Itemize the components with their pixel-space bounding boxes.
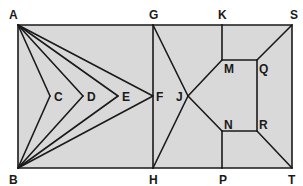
point-label-d: D: [87, 90, 96, 104]
point-label-h: H: [149, 173, 158, 186]
point-label-m: M: [224, 62, 234, 76]
point-label-c: C: [54, 90, 63, 104]
point-label-b: B: [9, 173, 18, 186]
point-label-a: A: [9, 8, 18, 22]
point-label-q: Q: [259, 62, 268, 76]
point-label-r: R: [259, 118, 268, 132]
point-label-g: G: [149, 8, 158, 22]
point-label-e: E: [122, 90, 130, 104]
point-label-j: J: [176, 90, 183, 104]
point-label-k: K: [218, 8, 227, 22]
point-label-p: P: [219, 173, 227, 186]
geometry-diagram: A B C D E F G H J K M N P Q R S T: [0, 0, 303, 186]
point-label-n: N: [224, 118, 233, 132]
point-label-f: F: [156, 90, 163, 104]
point-label-s: S: [290, 8, 298, 22]
point-label-t: T: [288, 173, 296, 186]
